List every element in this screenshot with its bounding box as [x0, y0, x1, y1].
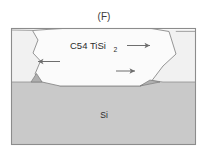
grain-label: C54 TiSi — [70, 40, 106, 51]
schematic-body: C54 TiSi 2 Si — [11, 26, 196, 145]
cross-section-schematic: (F) C54 TiSi 2 — [0, 0, 208, 155]
substrate-label: Si — [100, 110, 108, 120]
grain-label-subscript: 2 — [114, 46, 118, 53]
figure-container: (F) C54 TiSi 2 — [0, 0, 208, 155]
panel-label: (F) — [98, 11, 111, 22]
grain-c54-tisi2 — [33, 26, 177, 86]
